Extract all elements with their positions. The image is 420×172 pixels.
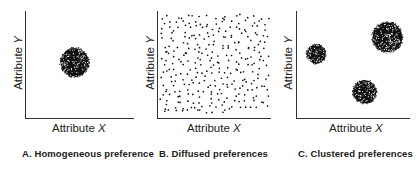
data-point <box>192 82 194 84</box>
data-point <box>173 56 175 58</box>
data-point <box>195 76 197 78</box>
data-point <box>177 101 179 103</box>
data-point <box>259 59 261 61</box>
data-point <box>194 48 196 50</box>
data-point <box>256 87 258 89</box>
data-point <box>175 74 177 76</box>
data-point <box>218 62 220 64</box>
data-point <box>227 86 229 88</box>
data-point <box>180 73 182 75</box>
data-point <box>253 15 255 17</box>
data-point <box>247 58 249 60</box>
data-point <box>185 24 187 26</box>
data-point <box>195 67 197 69</box>
x-axis-variable: X <box>98 122 106 134</box>
data-point <box>268 55 270 57</box>
data-point <box>207 54 209 56</box>
data-point <box>214 80 216 82</box>
data-point <box>202 27 204 29</box>
data-point <box>192 94 194 96</box>
scatter-plot-c <box>280 0 420 172</box>
data-point <box>219 67 221 69</box>
data-point <box>194 107 196 109</box>
data-point <box>218 31 220 33</box>
data-point <box>166 100 168 102</box>
data-point <box>183 42 185 44</box>
data-point <box>213 64 215 66</box>
data-point <box>227 45 229 47</box>
caption-c: C. Clustered preferences <box>298 148 413 159</box>
data-point <box>231 20 233 22</box>
data-point <box>167 109 169 111</box>
data-point <box>262 35 264 37</box>
data-point <box>161 28 163 30</box>
data-point <box>268 18 270 20</box>
data-point <box>190 26 192 28</box>
data-point <box>169 26 171 28</box>
data-point <box>231 106 233 108</box>
data-point <box>169 21 171 23</box>
data-point <box>212 29 214 31</box>
x-axis-label-text: Attribute <box>329 122 375 134</box>
data-point <box>211 102 213 104</box>
data-point <box>263 102 265 104</box>
data-point <box>201 106 203 108</box>
data-point <box>195 25 197 27</box>
data-point <box>216 23 218 25</box>
data-point <box>199 24 201 26</box>
data-point <box>193 102 195 104</box>
data-point <box>219 89 221 91</box>
data-point <box>266 89 268 91</box>
data-point <box>169 94 171 96</box>
data-point <box>258 44 260 46</box>
data-point <box>208 44 210 46</box>
data-point <box>166 51 168 53</box>
data-point <box>251 64 253 66</box>
data-point <box>240 107 242 109</box>
data-point <box>264 24 266 26</box>
data-point <box>189 37 191 39</box>
data-point <box>206 24 208 26</box>
scatter-plot-b <box>140 0 280 172</box>
data-point <box>215 85 217 87</box>
data-point <box>177 47 179 49</box>
data-point <box>177 96 179 98</box>
data-point <box>215 18 217 20</box>
data-point <box>256 95 258 97</box>
data-point <box>245 106 247 108</box>
data-point <box>205 48 207 50</box>
data-point <box>244 79 246 81</box>
x-axis-label: Attribute X <box>187 122 241 134</box>
data-point <box>166 89 168 91</box>
data-point <box>203 91 205 93</box>
data-point <box>221 93 223 95</box>
data-point <box>254 47 256 49</box>
data-point <box>236 26 238 28</box>
data-point <box>200 64 202 66</box>
data-point <box>268 95 270 97</box>
data-point <box>173 68 175 70</box>
data-point <box>163 71 165 73</box>
data-point <box>197 72 199 74</box>
y-axis-label: Attribute Y <box>144 28 156 98</box>
data-point <box>231 55 233 57</box>
data-point <box>186 109 188 111</box>
data-point <box>184 84 186 86</box>
data-point <box>211 72 213 74</box>
data-point <box>160 77 162 79</box>
data-point <box>164 64 166 66</box>
data-point <box>224 72 226 74</box>
panel-homogeneous: Attribute Y Attribute X A. Homogeneous p… <box>0 0 140 172</box>
data-point <box>182 108 184 110</box>
data-point <box>210 66 212 68</box>
data-point <box>197 109 199 111</box>
data-point <box>244 100 246 102</box>
data-point <box>258 52 260 54</box>
data-point <box>234 88 236 90</box>
data-point <box>168 45 170 47</box>
preference-cluster <box>306 43 327 64</box>
data-point <box>231 36 233 38</box>
data-point <box>161 58 163 60</box>
data-point <box>227 67 229 69</box>
data-point <box>194 62 196 64</box>
